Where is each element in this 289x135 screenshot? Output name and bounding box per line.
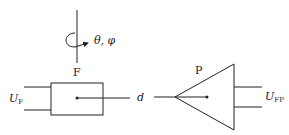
rotation-label: θ, φ (94, 34, 116, 47)
probe-center-dot (206, 96, 209, 99)
probe-label: P (195, 64, 203, 77)
fiber-input-label: UF (9, 92, 23, 106)
fiber-label: F (73, 66, 81, 79)
probe-output-label: UFP (265, 90, 284, 104)
distance-label: d (137, 91, 144, 104)
diagram-canvas: θ, φ F UF d P UFP (0, 0, 289, 135)
